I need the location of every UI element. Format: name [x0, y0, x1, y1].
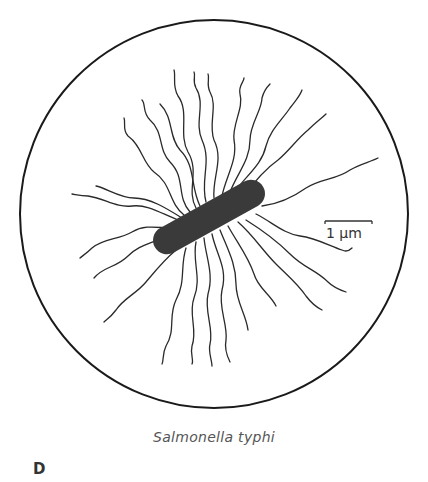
- scale-bar-label: 1 μm: [326, 225, 362, 241]
- figure-caption: Salmonella typhi: [0, 429, 428, 445]
- bacterium-diagram: [0, 0, 428, 482]
- cell-body: [148, 175, 270, 260]
- scale-bar: [325, 221, 372, 224]
- panel-label: D: [33, 460, 45, 478]
